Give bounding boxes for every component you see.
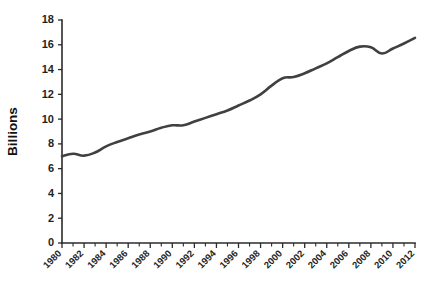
line-chart: Billions 024681012141618 198019821984198… bbox=[0, 0, 433, 285]
y-tick-label: 4 bbox=[48, 187, 55, 199]
y-axis-title: Billions bbox=[5, 107, 20, 156]
y-tick-label: 8 bbox=[48, 137, 54, 149]
y-axis-title-text: Billions bbox=[5, 107, 20, 156]
y-tick-label: 10 bbox=[42, 113, 54, 125]
y-tick-label: 2 bbox=[48, 212, 54, 224]
y-tick-label: 6 bbox=[48, 162, 54, 174]
y-tick-label: 18 bbox=[42, 13, 54, 25]
chart-container: Billions 024681012141618 198019821984198… bbox=[0, 0, 433, 285]
y-tick-label: 12 bbox=[42, 88, 54, 100]
y-tick-label: 16 bbox=[42, 38, 54, 50]
y-tick-label: 0 bbox=[48, 236, 54, 248]
y-tick-label: 14 bbox=[42, 63, 55, 75]
